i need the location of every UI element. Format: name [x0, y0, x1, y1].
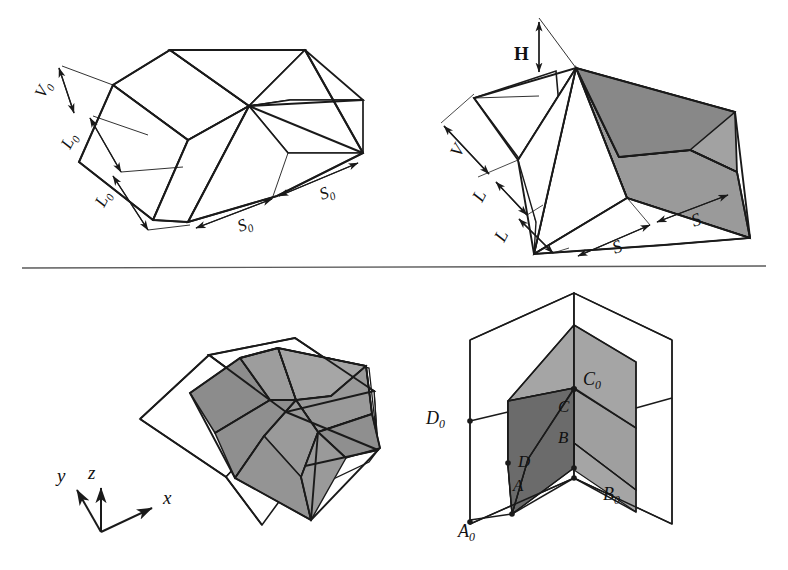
label-C0-sub: 0	[595, 378, 601, 392]
vertex-dot-B0	[571, 475, 577, 481]
label-A: A	[512, 476, 524, 495]
technical-figure-canvas: V0 L0 L0 S0 S0	[0, 0, 788, 570]
axis-label-x: x	[162, 487, 172, 508]
label-B0-sub: 0	[614, 493, 620, 507]
label-A0-sub: 0	[469, 530, 475, 544]
label-C: C	[558, 397, 570, 416]
label-B: B	[558, 428, 569, 447]
vertex-dot-D0	[467, 418, 473, 424]
label-H: H	[514, 43, 529, 64]
label-B0-base: B	[603, 484, 614, 504]
label-D0-sub: 0	[439, 417, 445, 431]
axis-label-y: y	[55, 465, 66, 486]
axis-label-z: z	[87, 462, 96, 483]
vertex-dot-D	[505, 460, 511, 466]
figure-sheet: V0 L0 L0 S0 S0	[0, 0, 788, 570]
vertex-dot-B	[571, 465, 577, 471]
vertex-dot-C	[571, 386, 576, 391]
label-D0-base: D	[425, 408, 439, 428]
label-D: D	[517, 452, 531, 471]
vertex-dot-A	[509, 511, 515, 517]
